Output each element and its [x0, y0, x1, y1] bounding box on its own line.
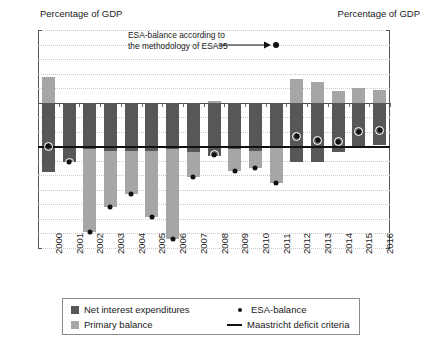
x-axis-tick [204, 103, 205, 107]
x-axis-label: 2000 [53, 233, 64, 254]
bar-group[interactable] [228, 30, 241, 248]
x-axis-tick [245, 103, 246, 107]
x-axis-tick [162, 103, 163, 107]
x-axis-label: 2013 [322, 233, 333, 254]
legend-item[interactable]: Net interest expenditures [71, 304, 190, 315]
esa-annotation-line1: ESA-balance according to [128, 30, 228, 41]
legend-swatch-icon [71, 321, 79, 329]
x-axis-label: 2014 [343, 233, 354, 254]
x-axis-label: 2005 [156, 233, 167, 254]
legend-item-label: ESA-balance [251, 304, 306, 315]
legend-item[interactable]: Maastricht deficit criteria [227, 319, 349, 330]
x-axis-tick [59, 103, 60, 107]
bar-group[interactable] [63, 30, 76, 248]
x-axis-tick [390, 103, 391, 107]
bar-group[interactable] [125, 30, 138, 248]
legend-item-label: Primary balance [84, 319, 153, 330]
esa-balance-point [274, 180, 279, 185]
esa-balance-point [315, 138, 320, 143]
bar-group[interactable] [42, 30, 55, 248]
bar-segment-net-interest [352, 103, 365, 148]
x-axis-tick [224, 103, 225, 107]
bar-segment-primary-balance [311, 82, 324, 102]
bar-group[interactable] [352, 30, 365, 248]
bar-segment-net-interest [208, 103, 221, 157]
bar-segment-primary-balance [166, 149, 179, 239]
x-axis-tick [142, 103, 143, 107]
x-axis-tick [79, 103, 80, 107]
esa-balance-point [232, 168, 237, 173]
bar-group[interactable] [208, 30, 221, 248]
x-axis-tick [121, 103, 122, 107]
x-axis-label: 2011 [281, 234, 292, 254]
bar-group[interactable] [187, 30, 200, 248]
bar-segment-primary-balance [42, 77, 55, 103]
left-axis-spine [38, 30, 39, 248]
legend-item[interactable]: Primary balance [71, 319, 153, 330]
esa-balance-point [212, 152, 217, 157]
bar-segment-primary-balance [270, 146, 283, 182]
bar-segment-net-interest [228, 103, 241, 150]
bar-segment-primary-balance [145, 151, 158, 218]
left-axis-caption: Percentage of GDP [40, 8, 122, 19]
legend-item[interactable]: ESA-balance [235, 304, 306, 315]
bar-group[interactable] [166, 30, 179, 248]
bar-segment-primary-balance [187, 152, 200, 177]
x-axis-tick [328, 103, 329, 107]
esa-balance-point [356, 129, 361, 134]
x-axis-label: 2006 [177, 233, 188, 254]
x-axis-label: 2009 [239, 233, 250, 254]
bar-group[interactable] [373, 30, 386, 248]
x-axis-tick [183, 103, 184, 107]
x-axis-label: 2010 [260, 233, 271, 254]
x-axis-label: 2016 [384, 233, 395, 254]
x-axis-tick [349, 103, 350, 107]
esa-balance-point [336, 139, 341, 144]
x-axis-tick [307, 103, 308, 107]
right-axis-caption: Percentage of GDP [338, 8, 420, 19]
bar-segment-net-interest [125, 103, 138, 151]
x-axis-label: 2012 [301, 233, 312, 254]
bar-segment-primary-balance [290, 79, 303, 102]
arrow-right-icon [220, 39, 272, 51]
right-axis-spine [389, 30, 390, 248]
chart-figure: Percentage of GDP Percentage of GDP 5544… [0, 0, 428, 347]
esa-balance-point [294, 134, 299, 139]
bar-segment-net-interest [311, 103, 324, 163]
bar-segment-net-interest [187, 103, 200, 152]
plot-area: 554433221100−1−1−2−2−3−3−4−4−5−5−6−6−7−7… [38, 30, 390, 248]
x-axis-tick [286, 103, 287, 107]
bar-segment-net-interest [166, 103, 179, 150]
esa-annotation-line2: the methodology of ESA95 [128, 41, 228, 52]
esa-balance-point [191, 174, 196, 179]
bar-segment-primary-balance [125, 151, 138, 195]
legend-item-label: Maastricht deficit criteria [247, 319, 349, 330]
bar-segment-primary-balance [104, 151, 117, 208]
maastricht-deficit-line [38, 146, 390, 148]
esa-balance-point [377, 128, 382, 133]
bar-group[interactable] [104, 30, 117, 248]
bar-segment-primary-balance [352, 88, 365, 103]
esa-balance-point [46, 144, 51, 149]
chart-legend: Net interest expendituresPrimary balance… [62, 298, 360, 335]
legend-item-label: Net interest expenditures [84, 304, 190, 315]
esa-balance-point [108, 205, 113, 210]
x-axis-label: 2002 [94, 233, 105, 254]
bar-segment-net-interest [83, 103, 96, 150]
x-axis-label: 2007 [198, 233, 209, 254]
legend-line-icon [227, 324, 242, 326]
axis-cap [386, 30, 390, 31]
x-axis-tick [369, 103, 370, 107]
esa-balance-point [129, 192, 134, 197]
bar-segment-net-interest [145, 103, 158, 151]
bar-segment-net-interest [270, 103, 283, 147]
bar-group[interactable] [83, 30, 96, 248]
bar-segment-primary-balance [83, 149, 96, 232]
bar-group[interactable] [249, 30, 262, 248]
x-axis-label: 2008 [219, 233, 230, 254]
esa-balance-point [253, 166, 258, 171]
bar-group[interactable] [270, 30, 283, 248]
esa-annotation: ESA-balance according to the methodology… [128, 30, 228, 52]
esa-balance-point [149, 215, 154, 220]
x-axis-tick [100, 103, 101, 107]
